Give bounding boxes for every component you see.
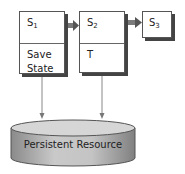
- state-box-s2: S2 T: [79, 11, 125, 73]
- state-body-line: Save: [27, 48, 64, 62]
- arrow-s2-to-resource: [100, 75, 105, 119]
- state-header: S2: [80, 12, 124, 43]
- state-body: T: [80, 43, 124, 72]
- state-subscript: 1: [33, 22, 37, 30]
- arrow-s2-to-s3: [127, 17, 142, 28]
- state-body: Save State: [20, 43, 64, 73]
- resource-label: Persistent Resource: [11, 139, 135, 150]
- state-subscript: 2: [93, 22, 97, 30]
- arrow-s1-to-resource: [40, 75, 45, 119]
- state-header: S3: [143, 12, 171, 39]
- state-box-s3: S3: [142, 11, 172, 38]
- state-body-line: State: [27, 62, 64, 76]
- state-header: S1: [20, 12, 64, 43]
- arrow-s1-to-s2: [66, 20, 79, 31]
- state-body-line: T: [87, 48, 124, 62]
- state-box-s1: S1 Save State: [19, 11, 65, 74]
- state-subscript: 3: [155, 22, 159, 30]
